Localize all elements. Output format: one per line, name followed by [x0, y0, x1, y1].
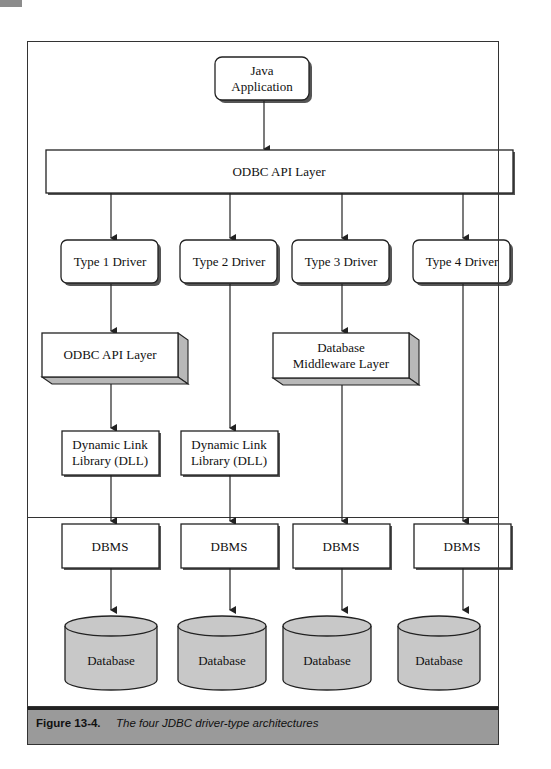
figure-caption-bar: Figure 13-4. The four JDBC driver-type a… — [27, 707, 499, 745]
figure-caption: The four JDBC driver-type architectures — [116, 717, 318, 729]
figure-number: Figure 13-4. — [36, 717, 101, 729]
figure-border — [27, 41, 499, 707]
